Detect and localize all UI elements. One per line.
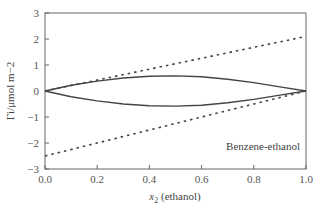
chart: 0.00.20.40.60.81.03210−1−2−3 Benzene-eth… <box>0 0 321 213</box>
y-tick-label: −1 <box>27 111 39 123</box>
y-tick-label: 0 <box>34 85 40 97</box>
y-tick-label: −3 <box>27 163 39 175</box>
x-tick-label: 0.6 <box>195 173 209 185</box>
x-axis-label: x2 (ethanol) <box>148 190 201 205</box>
x-tick-label: 0.8 <box>247 173 261 185</box>
series-line <box>45 91 306 106</box>
y-tick-label: 2 <box>34 33 40 45</box>
y-axis-label: Γi/μmol m−2 <box>4 62 16 121</box>
x-tick-label: 0.0 <box>38 173 52 185</box>
x-tick-label: 0.4 <box>143 173 157 185</box>
series-line <box>45 36 306 91</box>
y-tick-label: 1 <box>34 59 40 71</box>
y-tick-label: 3 <box>34 7 40 19</box>
data-series <box>45 36 306 156</box>
x-tick-label: 0.2 <box>90 173 104 185</box>
y-tick-label: −2 <box>27 137 39 149</box>
annotation-label: Benzene-ethanol <box>226 140 300 152</box>
x-tick-label: 1.0 <box>299 173 313 185</box>
